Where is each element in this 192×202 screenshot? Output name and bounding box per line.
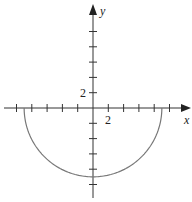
x-axis-label: x <box>183 113 190 127</box>
x-axis-arrow-icon <box>181 104 191 112</box>
y-tick-label-2: 2 <box>80 86 86 100</box>
x-tick-label-2: 2 <box>105 113 111 127</box>
y-axis-label: y <box>99 4 106 18</box>
y-axis-arrow-icon <box>89 4 97 15</box>
axes <box>4 12 184 198</box>
semicircle-graph: x y 2 2 <box>0 0 192 202</box>
